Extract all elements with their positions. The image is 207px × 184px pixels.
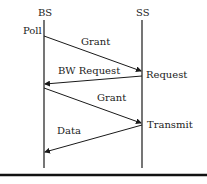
request-label: Request [146,70,187,80]
transmit-label: Transmit [147,120,193,130]
bw-request-label: BW Request [58,66,120,76]
data-label: Data [57,126,81,136]
bw-request-arrow [45,76,142,84]
grant-label-1: Grant [81,37,110,47]
grant-arrow-2 [44,88,141,123]
poll-label: Poll [23,26,42,36]
bs-label: BS [38,8,52,18]
grant-label-2: Grant [97,93,126,103]
ss-label: SS [136,8,150,18]
